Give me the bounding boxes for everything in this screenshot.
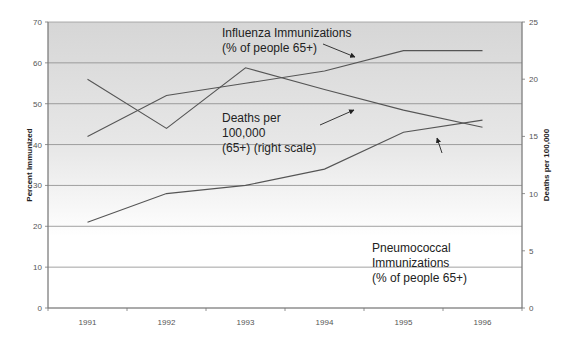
y2-tick-label: 10	[529, 190, 538, 199]
line-chart: 0102030405060700510152025199119921993199…	[0, 0, 569, 345]
y-tick-label: 10	[33, 263, 42, 272]
y-tick-label: 40	[33, 141, 42, 150]
x-tick-label: 1996	[474, 318, 492, 327]
svg-text:100,000: 100,000	[222, 126, 266, 140]
svg-text:Pneumococcal: Pneumococcal	[372, 241, 451, 255]
chart-canvas: 0102030405060700510152025199119921993199…	[0, 0, 569, 345]
y-tick-label: 30	[33, 181, 42, 190]
y2-tick-label: 20	[529, 75, 538, 84]
x-tick-label: 1995	[395, 318, 413, 327]
y2-tick-label: 15	[529, 132, 538, 141]
y-tick-label: 20	[33, 222, 42, 231]
y-axis-title: Percent Immunized	[25, 128, 34, 201]
y2-tick-label: 5	[529, 247, 534, 256]
svg-text:(% of people 65+): (% of people 65+)	[372, 271, 467, 285]
svg-text:(65+) (right scale): (65+) (right scale)	[222, 141, 316, 155]
x-tick-label: 1992	[158, 318, 176, 327]
y2-axis-title: Deaths per 100,000	[542, 128, 551, 201]
y-tick-label: 70	[33, 18, 42, 27]
x-tick-label: 1994	[316, 318, 334, 327]
y-tick-label: 60	[33, 59, 42, 68]
x-tick-label: 1991	[79, 318, 97, 327]
y2-tick-label: 25	[529, 18, 538, 27]
svg-text:Immunizations: Immunizations	[372, 256, 449, 270]
y-tick-label: 0	[38, 304, 43, 313]
svg-text:Influenza Immunizations: Influenza Immunizations	[222, 26, 351, 40]
x-tick-label: 1993	[237, 318, 255, 327]
y-tick-label: 50	[33, 100, 42, 109]
svg-text:(% of people 65+): (% of people 65+)	[222, 41, 317, 55]
plot-area	[48, 22, 522, 308]
svg-text:Deaths per: Deaths per	[222, 111, 281, 125]
y2-tick-label: 0	[529, 304, 534, 313]
